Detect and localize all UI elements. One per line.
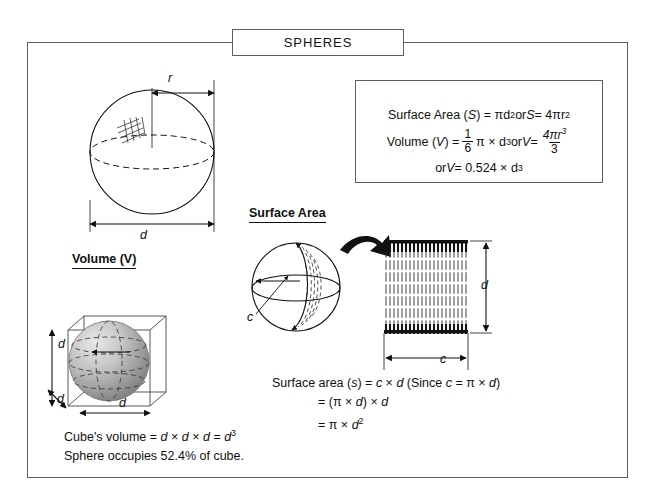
surface-area-section-heading: Surface Area: [249, 206, 326, 223]
surface-area-heading-rule: [249, 222, 326, 223]
formula-vol-symbol: V: [436, 130, 444, 155]
derivation-2-eq: = (π ×: [318, 395, 356, 409]
surface-area-derivation: Surface area (s) = c × d (Since c = π × …: [272, 374, 500, 435]
cube-note-t1: ×: [168, 430, 182, 444]
derivation-1-eq: = π ×: [452, 376, 489, 390]
label-radius: r: [168, 71, 172, 85]
formula-vol-mid: π × d: [476, 130, 506, 155]
cube-note-d3: d: [203, 430, 210, 444]
formula-vol-eq-2: =: [530, 130, 537, 155]
formula-vol-frac-numerator: 1: [462, 128, 473, 141]
formula-vol-frac2-num-text: 4πr: [543, 128, 562, 142]
sphere-diagram-figure: SPHERES Surface Area (S) = πd2 or S = 4π…: [0, 0, 657, 491]
label-rect-width: c: [440, 352, 446, 366]
formula-sa-rhs: = 4πr: [535, 103, 566, 128]
formula-vol-frac-denominator: 6: [462, 141, 473, 155]
derivation-line-2: = (π × d) × d: [272, 393, 500, 412]
formula-sa-exp-2: 2: [565, 103, 570, 128]
formula-sa-symbol: S: [468, 103, 476, 128]
derivation-2-d2: d: [381, 395, 388, 409]
label-cube-height: d: [58, 337, 65, 351]
formula-sa-or: or: [515, 103, 526, 128]
cube-note-line-2: Sphere occupies 52.4% of cube.: [64, 447, 244, 466]
cube-notes: Cube's volume = d × d × d = d3 Sphere oc…: [64, 424, 244, 466]
formula-vol-dec-or: or: [435, 156, 446, 181]
cube-note-eq: =: [210, 430, 224, 444]
formula-vol-symbol-2: V: [522, 130, 530, 155]
formula-vol-dec-symbol: V: [446, 156, 454, 181]
volume-heading-rule: [72, 268, 136, 269]
derivation-2-d: d: [356, 395, 363, 409]
formula-box: Surface Area (S) = πd2 or S = 4πr2 Volum…: [355, 80, 603, 183]
cube-note-d1: d: [161, 430, 168, 444]
cube-note-d2: d: [182, 430, 189, 444]
label-circumference: c: [247, 310, 253, 324]
derivation-1-since: (Since: [403, 376, 445, 390]
cube-note-pre: Cube's volume =: [64, 430, 161, 444]
derivation-1-close: ): [496, 376, 500, 390]
label-diameter: d: [140, 228, 147, 242]
formula-volume: Volume (V) = 1 6 π × d3 or V = 4πr3 3: [356, 128, 602, 156]
derivation-3-eq: = π ×: [318, 418, 352, 432]
derivation-1-pre: Surface area (: [272, 376, 351, 390]
formula-vol-eq: ) =: [444, 130, 459, 155]
formula-vol-fraction-2: 4πr3 3: [541, 127, 569, 155]
derivation-1-times: ×: [382, 376, 396, 390]
formula-vol-frac2-denominator: 3: [549, 142, 560, 156]
derivation-1-mid: ) =: [357, 376, 375, 390]
label-cube-depth: d: [57, 392, 64, 406]
cube-note-line-1: Cube's volume = d × d × d = d3: [64, 424, 244, 447]
formula-vol-label: Volume (: [387, 130, 436, 155]
formula-surface-area: Surface Area (S) = πd2 or S = 4πr2: [356, 103, 602, 128]
formula-sa-eq: ) = πd: [476, 103, 510, 128]
formula-sa-symbol-2: S: [526, 103, 534, 128]
derivation-2-mid: ) ×: [363, 395, 381, 409]
derivation-3-exp: 2: [359, 416, 364, 426]
formula-sa-label: Surface Area (: [388, 103, 468, 128]
formula-vol-frac2-num-exp: 3: [561, 126, 566, 136]
cube-note-exp: 3: [231, 428, 236, 438]
derivation-line-1: Surface area (s) = c × d (Since c = π × …: [272, 374, 500, 393]
formula-vol-or: or: [511, 130, 522, 155]
derivation-3-d: d: [352, 418, 359, 432]
formula-volume-decimal: or V = 0.524 × d3: [356, 156, 602, 181]
diagram-title: SPHERES: [284, 35, 352, 50]
label-cube-width: d: [119, 396, 126, 410]
formula-vol-dec-exp: 3: [518, 156, 523, 181]
formula-list: Surface Area (S) = πd2 or S = 4πr2 Volum…: [356, 103, 602, 181]
derivation-line-3: = π × d2: [272, 412, 500, 435]
formula-vol-frac2-numerator: 4πr3: [541, 127, 569, 142]
volume-section-heading: Volume (V): [72, 252, 136, 269]
label-rect-height: d: [481, 278, 488, 292]
volume-heading-text: Volume (V): [72, 252, 136, 266]
formula-vol-fraction: 1 6: [462, 128, 473, 154]
diagram-title-box: SPHERES: [232, 29, 404, 56]
formula-vol-dec-eq: = 0.524 × d: [455, 156, 518, 181]
cube-note-t2: ×: [189, 430, 203, 444]
surface-area-heading-text: Surface Area: [249, 206, 326, 220]
